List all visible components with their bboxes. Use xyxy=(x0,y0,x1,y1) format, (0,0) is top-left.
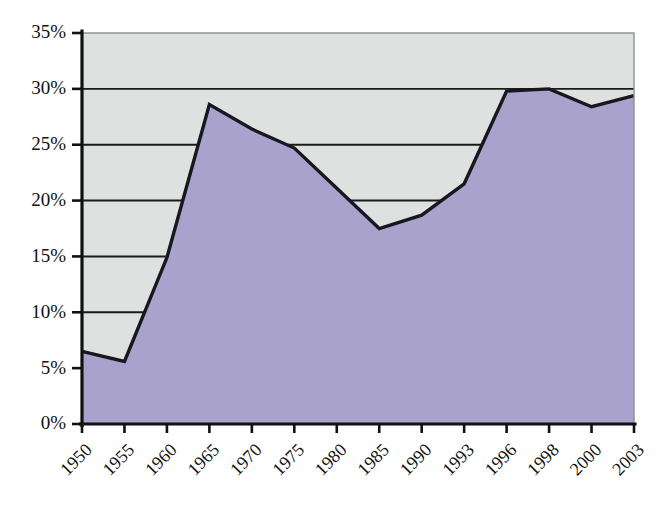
x-tick-label-1965: 1965 xyxy=(184,440,224,480)
y-tick-label-15: 15% xyxy=(31,245,66,266)
x-tick-label-2000: 2000 xyxy=(566,440,606,480)
x-tick-label-1970: 1970 xyxy=(226,440,266,480)
x-tick-label-1950: 1950 xyxy=(56,440,96,480)
x-tick-label-1985: 1985 xyxy=(353,440,393,480)
x-tick-label-1980: 1980 xyxy=(311,440,351,480)
x-tick-label-1993: 1993 xyxy=(438,440,478,480)
y-tick-label-30: 30% xyxy=(31,77,66,98)
y-tick-label-10: 10% xyxy=(31,301,66,322)
x-tick-label-1996: 1996 xyxy=(481,440,521,480)
x-tick-label-1990: 1990 xyxy=(396,440,436,480)
y-tick-label-35: 35% xyxy=(31,21,66,42)
x-tick-label-1960: 1960 xyxy=(141,440,181,480)
y-tick-label-0: 0% xyxy=(41,412,67,433)
x-axis-ticks: 1950195519601965197019751980198519901993… xyxy=(56,424,648,479)
x-tick-label-1998: 1998 xyxy=(523,440,563,480)
y-tick-label-5: 5% xyxy=(41,357,67,378)
y-tick-label-25: 25% xyxy=(31,133,66,154)
y-tick-label-20: 20% xyxy=(31,189,66,210)
area-chart: 0%5%10%15%20%25%30%35% 19501955196019651… xyxy=(0,0,663,516)
x-tick-label-1975: 1975 xyxy=(269,440,309,480)
chart-canvas: 0%5%10%15%20%25%30%35% 19501955196019651… xyxy=(0,0,663,516)
y-axis-ticks: 0%5%10%15%20%25%30%35% xyxy=(31,21,82,433)
x-tick-label-2003: 2003 xyxy=(608,440,648,480)
x-tick-label-1955: 1955 xyxy=(99,440,139,480)
